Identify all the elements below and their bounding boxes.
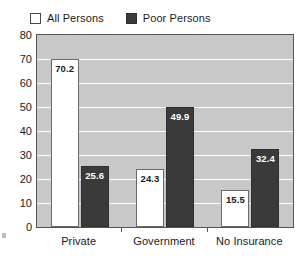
x-category-label-no-insurance: No Insurance — [216, 235, 283, 247]
bar-value-label: 32.4 — [256, 153, 275, 164]
y-tick-label: 0 — [26, 221, 32, 233]
open-square-icon — [30, 13, 41, 24]
y-tick-label: 30 — [20, 149, 32, 161]
bar-no-insurance-all-persons: 15.5 — [221, 190, 249, 227]
bar-government-all-persons: 24.3 — [136, 169, 164, 227]
y-tick-label: 40 — [20, 125, 32, 137]
legend-entry-poor-persons: Poor Persons — [126, 12, 211, 24]
legend-entry-all-persons: All Persons — [30, 12, 104, 24]
y-tick-label: 50 — [20, 101, 32, 113]
y-tick-label: 70 — [20, 53, 32, 65]
bar-private-poor-persons: 25.6 — [81, 166, 109, 227]
edge-artifact — [2, 233, 6, 238]
x-axis-tick — [121, 228, 122, 232]
chart-legend: All Persons Poor Persons — [30, 9, 211, 27]
y-tick-label: 10 — [20, 197, 32, 209]
bar-value-label: 24.3 — [141, 173, 160, 184]
bar-value-label: 49.9 — [171, 111, 190, 122]
legend-label-poor-persons: Poor Persons — [143, 12, 211, 24]
bars-layer: 70.225.624.349.915.532.4 — [37, 35, 293, 227]
bar-no-insurance-poor-persons: 32.4 — [251, 149, 279, 227]
bar-government-poor-persons: 49.9 — [166, 107, 194, 227]
y-axis: 01020304050607080 — [0, 34, 32, 228]
plot-area: 70.225.624.349.915.532.4 — [36, 34, 294, 228]
legend-label-all-persons: All Persons — [47, 12, 104, 24]
x-axis-tick — [207, 228, 208, 232]
bar-value-label: 25.6 — [85, 170, 104, 181]
bar-value-label: 15.5 — [226, 194, 245, 205]
bar-private-all-persons: 70.2 — [51, 59, 79, 227]
x-category-label-private: Private — [61, 235, 96, 247]
y-tick-label: 80 — [20, 29, 32, 41]
filled-square-icon — [126, 13, 137, 24]
x-category-label-government: Government — [133, 235, 195, 247]
y-tick-label: 20 — [20, 173, 32, 185]
x-axis: PrivateGovernmentNo Insurance — [36, 228, 294, 258]
y-tick-label: 60 — [20, 77, 32, 89]
bar-value-label: 70.2 — [55, 63, 74, 74]
